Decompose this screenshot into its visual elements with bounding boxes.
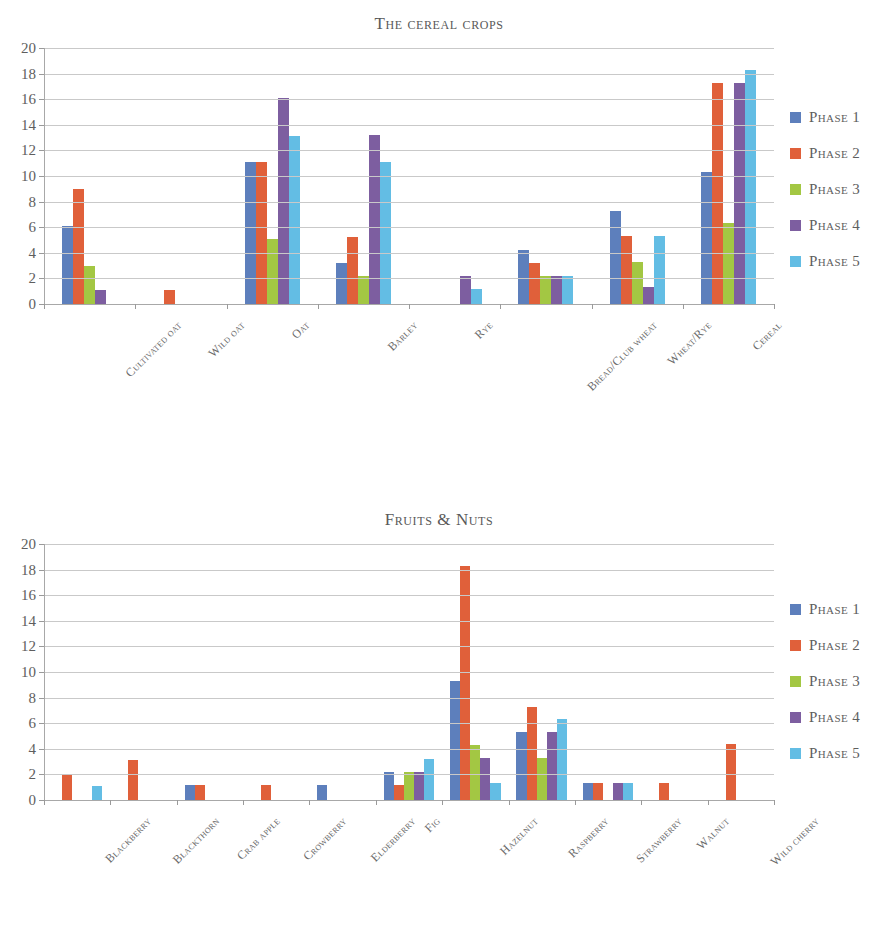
legend-swatch-icon [790,748,801,759]
legend-item-label: Phase 2 [809,637,860,654]
legend-item-phase-1[interactable]: Phase 1 [790,108,860,126]
y-axis-tick-label: 2 [29,767,37,782]
bar [734,83,745,304]
bar [537,758,547,800]
legend-item-phase-3[interactable]: Phase 3 [790,672,860,690]
bar [518,250,529,304]
y-axis-tick-label: 2 [29,271,37,286]
legend-item-phase-1[interactable]: Phase 1 [790,600,860,618]
x-axis-category-label: Oat [289,318,313,342]
x-axis-tick-mark [509,800,510,805]
bar [557,719,567,800]
x-axis-category-label: Bread/Club wheat [584,318,660,394]
x-axis-category-label: Elderberry [367,814,418,865]
chart-cereal-crops: The cereal crops 02468101214161820 Culti… [0,0,878,498]
bar [613,783,623,800]
gridline [44,544,774,545]
legend-swatch-icon [790,184,801,195]
y-axis-tick-label: 10 [21,665,36,680]
bar [562,276,573,304]
gridline [44,723,774,724]
bar [623,783,633,800]
y-axis-tick-label: 0 [29,793,37,808]
y-axis-tick-label: 16 [21,92,36,107]
gridline [44,202,774,203]
legend-swatch-icon [790,220,801,231]
legend-item-phase-5[interactable]: Phase 5 [790,744,860,762]
bar [450,681,460,800]
gridline [44,749,774,750]
x-axis-category-label: Blackthorn [169,814,222,867]
gridline [44,774,774,775]
x-axis-category-label: Strawberry [633,814,685,866]
x-axis-category-label: Cultivated oat [122,318,185,381]
x-axis-tick-mark [177,800,178,805]
legend-item-phase-4[interactable]: Phase 4 [790,708,860,726]
legend-swatch-icon [790,148,801,159]
legend-item-label: Phase 4 [809,217,860,234]
bar [261,785,271,800]
bar [471,289,482,304]
chart-title-cereal: The cereal crops [0,0,878,36]
bar [164,290,175,304]
x-axis-tick-mark [44,800,45,805]
legend-item-phase-2[interactable]: Phase 2 [790,636,860,654]
x-axis-category-label: Rye [471,318,495,342]
bar [490,783,500,800]
bar [347,237,358,304]
x-axis-category-label: Raspberry [565,814,612,861]
legend-item-phase-4[interactable]: Phase 4 [790,216,860,234]
bar [712,83,723,304]
legend-item-phase-2[interactable]: Phase 2 [790,144,860,162]
bar [128,760,138,800]
legend-item-phase-3[interactable]: Phase 3 [790,180,860,198]
x-axis-tick-mark [575,800,576,805]
x-axis-category-label: Hazelnut [497,814,542,859]
bar [745,70,756,304]
y-axis-tick-label: 4 [29,245,37,260]
gridline [44,698,774,699]
legend-swatch-icon [790,604,801,615]
x-axis-tick-mark [683,304,684,309]
y-axis-tick-label: 14 [21,117,36,132]
bar [62,226,73,304]
gridline [44,176,774,177]
x-axis-tick-mark [243,800,244,805]
bar [470,745,480,800]
x-axis-tick-mark [592,304,593,309]
x-axis-tick-mark [135,304,136,309]
bar [529,263,540,304]
x-axis-tick-mark [641,800,642,805]
gridline [44,99,774,100]
x-axis-category-label: Wild cherry [767,814,822,869]
bar [185,785,195,800]
bar [460,566,470,800]
bar [84,266,95,304]
y-axis-tick-label: 4 [29,741,37,756]
legend-item-label: Phase 1 [809,601,860,618]
y-axis-line [44,48,45,304]
gridline [44,595,774,596]
bar [384,772,394,800]
bar [380,162,391,304]
bar [195,785,205,800]
chart-fruits-nuts: Fruits & Nuts 02468101214161820 Blackber… [0,498,878,928]
bar [726,744,736,800]
bar [480,758,490,800]
y-axis-line [44,544,45,800]
x-axis-tick-mark [442,800,443,805]
bar [95,290,106,304]
bar [643,287,654,304]
x-axis-tick-mark [774,304,775,309]
bar [516,732,526,800]
legend-item-phase-5[interactable]: Phase 5 [790,252,860,270]
bar [659,783,669,800]
y-axis-tick-label: 6 [29,220,37,235]
x-axis-tick-mark [227,304,228,309]
bar [527,707,537,800]
y-axis-tick-label: 18 [21,562,36,577]
x-axis-category-label: Cereal [750,318,786,354]
y-axis-tick-label: 18 [21,66,36,81]
legend-swatch-icon [790,676,801,687]
x-axis-category-label: Barley [385,318,421,354]
